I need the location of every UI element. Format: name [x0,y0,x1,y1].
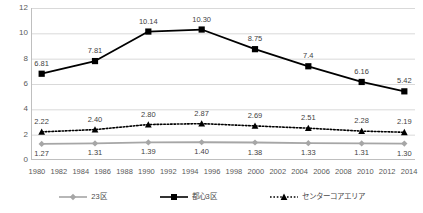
legend-key-triangle-icon [269,192,299,202]
data-label: 2.80 [141,111,156,119]
marker-triangle [38,128,45,134]
data-label: 2.19 [397,118,412,126]
data-label: 6.16 [354,68,369,76]
data-label: 1.39 [141,148,156,156]
marker-diamond [92,140,98,146]
y-axis-tick-label: 12 [2,4,28,12]
x-axis-tick-label: 2006 [311,166,333,178]
legend-item[interactable]: 23区 [58,192,106,202]
x-axis: 1980198219841986198819901992199419961998… [26,166,420,178]
marker-diamond [359,140,365,146]
marker-square [252,46,258,52]
data-label: 8.75 [248,35,263,43]
x-axis-tick-label: 1982 [48,166,70,178]
data-label: 5.42 [397,77,412,85]
legend-label: 都心3区 [192,193,217,201]
x-axis-tick-label: 1984 [70,166,92,178]
marker-diamond [199,139,205,145]
marker-square [92,58,98,64]
data-label: 1.31 [354,149,369,157]
x-axis-tick-label: 1992 [157,166,179,178]
marker-square [39,71,45,77]
x-axis-tick-label: 2008 [332,166,354,178]
legend-item[interactable]: センターコアエリア [269,192,365,202]
x-axis-tick-label: 2000 [245,166,267,178]
marker-diamond [39,141,45,147]
data-label: 10.14 [139,18,158,26]
x-axis-tick-label: 1980 [26,166,48,178]
marker-square [401,88,407,94]
legend-marker-diamond [70,194,76,200]
x-axis-tick-label: 2014 [398,166,420,178]
data-label: 1.31 [88,149,103,157]
y-axis-tick-label: 6 [2,80,28,88]
legend-label: 23区 [91,193,106,201]
y-axis-tick-label: 0 [2,156,28,164]
legend-key-square-icon [159,192,189,202]
y-axis-tick-label: 4 [2,105,28,113]
x-axis-tick-label: 1996 [201,166,223,178]
marker-square [199,26,205,32]
x-axis-tick-label: 1986 [92,166,114,178]
legend-marker-square [171,194,177,200]
data-label: 1.27 [34,150,49,158]
marker-diamond [401,140,407,146]
data-label: 2.40 [88,116,103,124]
data-label: 2.69 [248,112,263,120]
legend-item[interactable]: 都心3区 [159,192,217,202]
x-axis-tick-label: 1998 [223,166,245,178]
marker-square [145,28,151,34]
data-label: 7.81 [88,47,103,55]
data-label: 2.87 [194,110,209,118]
plot-area: 1.271.311.391.401.381.331.311.306.817.81… [31,8,415,160]
data-label: 2.22 [34,118,49,126]
marker-square [305,63,311,69]
data-label: 7.4 [303,52,313,60]
x-axis-tick-label: 2002 [267,166,289,178]
x-axis-tick-label: 2012 [376,166,398,178]
data-label: 1.38 [248,149,263,157]
data-label: 1.33 [301,149,316,157]
legend-key-diamond-icon [58,192,88,202]
marker-diamond [252,139,258,145]
data-label: 2.51 [301,114,316,122]
legend-label: センターコアエリア [302,193,365,201]
plot-svg [31,8,415,160]
y-axis-tick-label: 2 [2,131,28,139]
series-0 [39,139,408,147]
x-axis-tick-label: 2004 [289,166,311,178]
y-axis-tick-label: 10 [2,29,28,37]
y-axis: 024681012 [0,8,28,160]
marker-diamond [145,139,151,145]
data-label: 1.40 [194,148,209,156]
x-axis-tick-label: 1990 [135,166,157,178]
x-axis-tick-label: 1988 [114,166,136,178]
x-axis-tick-label: 1994 [179,166,201,178]
data-label: 6.81 [34,60,49,68]
data-label: 1.30 [397,150,412,158]
data-label: 10.30 [192,16,211,24]
line-chart: 024681012 1.271.311.391.401.381.331.311.… [0,0,423,213]
y-axis-tick-label: 8 [2,55,28,63]
x-axis-tick-label: 2010 [354,166,376,178]
marker-square [359,79,365,85]
data-label: 2.28 [354,117,369,125]
chart-legend: 23区都心3区センターコアエリア [0,188,423,206]
marker-diamond [305,140,311,146]
